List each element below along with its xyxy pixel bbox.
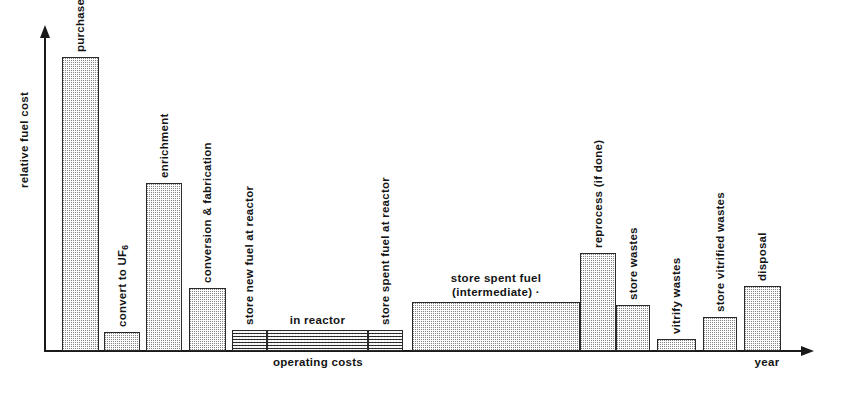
x-axis-arrow-icon — [801, 346, 814, 356]
y-axis-title-label: relative fuel cost — [18, 92, 30, 188]
bar-label-in-reactor: in reactor — [247, 313, 388, 327]
bar-label-store-vitrified-wastes: store vitrified wastes — [715, 192, 727, 312]
fuel-cost-bar-chart: relative fuel cost year purchase uranium… — [0, 0, 846, 393]
x-axis-title: year — [744, 356, 790, 368]
bar-store-spent-fuel-at-reactor — [368, 330, 403, 351]
operating-costs-annotation: operating costs — [248, 355, 388, 369]
bar-label-conversion-and-fabrication: conversion & fabrication — [202, 142, 214, 283]
bar-disposal — [744, 286, 781, 351]
bar-purchase-uranium — [62, 57, 99, 351]
bar-in-reactor — [267, 330, 368, 351]
bar-label-in-reactor-line-1: in reactor — [247, 313, 388, 327]
bar-store-new-fuel-at-reactor — [232, 330, 267, 351]
subscript-6: 6 — [120, 245, 130, 250]
bar-label-store-wastes: store wastes — [628, 227, 640, 300]
y-axis-arrow-icon — [40, 25, 50, 38]
y-axis-title: relative fuel cost — [16, 60, 32, 220]
bar-label-convert-to-uf6: convert to UF6 — [117, 245, 129, 327]
bar-label-store-spent-fuel-intermediate: store spent fuel(intermediate) · — [392, 271, 600, 300]
bar-label-reprocess-if-done: reprocess (if done) — [593, 140, 605, 248]
bar-label-purchase-uranium: purchase uranium — [75, 0, 87, 52]
bar-store-spent-fuel-intermediate — [412, 302, 580, 351]
bar-label-enrichment: enrichment — [159, 114, 171, 179]
bar-label-store-spent-fuel-intermediate-line-2: (intermediate) · — [392, 285, 600, 299]
bar-enrichment — [146, 183, 182, 351]
bar-label-vitrify-wastes: vitrify wastes — [671, 258, 683, 334]
bar-label-disposal: disposal — [757, 232, 769, 281]
bar-convert-to-uf6 — [104, 332, 140, 351]
y-axis-line — [44, 36, 46, 352]
bar-label-store-new-fuel-at-reactor: store new fuel at reactor — [244, 186, 256, 325]
bar-label-store-spent-fuel-at-reactor: store spent fuel at reactor — [380, 177, 392, 325]
bar-store-vitrified-wastes — [703, 317, 737, 351]
bar-store-wastes — [616, 305, 650, 351]
bar-conversion-and-fabrication — [189, 288, 226, 351]
bar-label-store-spent-fuel-intermediate-line-1: store spent fuel — [392, 271, 600, 285]
bar-vitrify-wastes — [657, 339, 696, 351]
bar-reprocess-if-done — [580, 253, 616, 351]
